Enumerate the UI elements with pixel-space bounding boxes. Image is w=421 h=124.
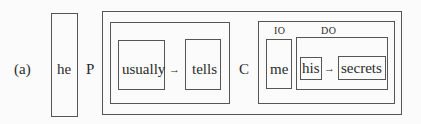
arrow-icon: → [169, 64, 180, 75]
arrow-icon: → [324, 63, 335, 74]
noun-word: secrets [341, 61, 382, 76]
subject-word: he [57, 62, 71, 77]
verb-word: tells [192, 62, 217, 77]
determiner-word: his [302, 61, 320, 76]
indirect-object-tag: IO [274, 26, 286, 36]
predicate-marker: P [86, 62, 94, 77]
figure-label: (a) [14, 62, 31, 77]
direct-object-tag: DO [321, 26, 336, 36]
modifier-word: usually [122, 62, 165, 77]
complement-marker: C [239, 62, 249, 77]
indirect-object-word: me [270, 62, 288, 77]
